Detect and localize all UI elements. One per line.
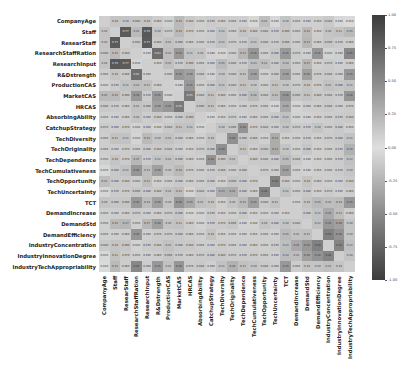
heatmap-cell: 0.080 <box>152 187 163 198</box>
heatmap-cell: 0.13 <box>131 80 142 91</box>
heatmap-cell: 0.060 <box>184 133 195 144</box>
heatmap-cell: 0.080 <box>195 91 206 102</box>
heatmap-cell: 0.060 <box>302 101 313 112</box>
heatmap-cell: 0.070 <box>184 165 195 176</box>
heatmap-cell: 0.14 <box>334 197 345 208</box>
heatmap-cell: 0.080 <box>174 229 185 240</box>
heatmap-cell <box>312 229 323 240</box>
heatmap-cell: 0.080 <box>227 59 238 70</box>
heatmap-cell: 0.11 <box>110 251 121 262</box>
heatmap-cell: 0.050 <box>312 133 323 144</box>
heatmap-cell: 0.080 <box>238 165 249 176</box>
heatmap-cell: 0.35 <box>323 219 334 230</box>
heatmap-cell: 0.060 <box>248 112 259 123</box>
heatmap-cell: 0.49 <box>270 176 281 187</box>
heatmap-cell: 0.090 <box>323 37 334 48</box>
heatmap-cell: 0.030 <box>131 59 142 70</box>
heatmap-cell: 0.080 <box>110 165 121 176</box>
heatmap-cell: 0.12 <box>238 261 249 272</box>
heatmap-cell: 0.070 <box>291 48 302 59</box>
heatmap-cell: 0.050 <box>291 16 302 27</box>
heatmap-cell <box>142 59 153 70</box>
heatmap-cell: 0.050 <box>259 208 270 219</box>
heatmap-cell: 0.080 <box>227 69 238 80</box>
column-label: DemandStd <box>302 276 312 376</box>
heatmap-cell: 0.060 <box>259 251 270 262</box>
heatmap-cell: 0.060 <box>291 37 302 48</box>
heatmap-cell: 0.35 <box>302 240 313 251</box>
column-label: MarketCAS <box>174 276 184 376</box>
heatmap-cell: 0.030 <box>142 48 153 59</box>
heatmap-cell: 0.080 <box>270 112 281 123</box>
heatmap-cell: 0.060 <box>259 229 270 240</box>
heatmap-cell: 0.070 <box>238 37 249 48</box>
heatmap-cell: 0.070 <box>195 251 206 262</box>
heatmap-cell: 0.070 <box>334 37 345 48</box>
heatmap-cell: 0.090 <box>302 144 313 155</box>
heatmap-cell: 0.38 <box>334 229 345 240</box>
heatmap-cell: 0.080 <box>238 176 249 187</box>
heatmap-cell: 0.060 <box>152 80 163 91</box>
heatmap-cell: 0.060 <box>195 165 206 176</box>
heatmap-cell <box>334 251 345 262</box>
heatmap-cell: 0.13 <box>291 251 302 262</box>
heatmap-cell: 0.070 <box>302 133 313 144</box>
heatmap-cell: 0.040 <box>302 165 313 176</box>
heatmap-cell: 0.070 <box>270 240 281 251</box>
row-label: DemandIncrease <box>46 208 96 218</box>
heatmap-cell: 0.090 <box>131 187 142 198</box>
heatmap-cell: 0.070 <box>323 59 334 70</box>
heatmap-cell: 0.080 <box>270 69 281 80</box>
heatmap-cell: 0.10 <box>110 69 121 80</box>
heatmap-cell: 0.040 <box>302 112 313 123</box>
heatmap-cell: 0.060 <box>259 112 270 123</box>
heatmap-cell <box>323 240 334 251</box>
heatmap-cell: 0.060 <box>120 208 131 219</box>
heatmap-cell: 0.080 <box>238 187 249 198</box>
heatmap-cell: 0.090 <box>131 16 142 27</box>
heatmap-cell: 0.36 <box>248 48 259 59</box>
heatmap-cell: 0.050 <box>238 112 249 123</box>
heatmap-cell: 0.48 <box>334 240 345 251</box>
heatmap-cell: 0.10 <box>99 37 110 48</box>
heatmap-cell: 0.070 <box>163 27 174 38</box>
colorbar-tick-label: -0.25 <box>388 179 397 183</box>
heatmap-cell: 0.10 <box>312 123 323 134</box>
heatmap-cell: 0.070 <box>142 155 153 166</box>
heatmap-cell: 0.15 <box>302 27 313 38</box>
column-label: DemandEfficiency <box>313 276 323 376</box>
heatmap-cell: 0.11 <box>110 133 121 144</box>
heatmap-cell: 0.12 <box>323 261 334 272</box>
heatmap-cell: 0.030 <box>270 101 281 112</box>
heatmap-cell: 0.060 <box>120 229 131 240</box>
heatmap-cell: 0.090 <box>195 101 206 112</box>
heatmap-cell: 0.35 <box>131 91 142 102</box>
heatmap-cell: 0.080 <box>302 208 313 219</box>
heatmap-cell: 0.020 <box>248 16 259 27</box>
heatmap-cell: 0.090 <box>99 48 110 59</box>
heatmap-cell: 0.36 <box>312 48 323 59</box>
heatmap-cell: 0.13 <box>142 176 153 187</box>
heatmap-cell: 0.060 <box>184 229 195 240</box>
row-label: MarketCAS <box>63 91 96 101</box>
column-label: TechDiversity <box>217 276 227 376</box>
heatmap-cell: 0.10 <box>216 69 227 80</box>
heatmap-cell: 0.080 <box>323 69 334 80</box>
heatmap-cell <box>99 16 110 27</box>
heatmap-cell: 0.050 <box>248 208 259 219</box>
heatmap-cell: 0.030 <box>216 48 227 59</box>
heatmap-cell: 0.050 <box>291 133 302 144</box>
heatmap-cell: 0.090 <box>227 123 238 134</box>
heatmap-cell: 0.050 <box>99 208 110 219</box>
heatmap-cell: 0.090 <box>334 80 345 91</box>
heatmap-cell: 0.38 <box>206 155 217 166</box>
heatmap-cell: 0.090 <box>120 91 131 102</box>
colorbar-tick-label: 0.50 <box>388 79 396 83</box>
heatmap-cell: 0.090 <box>259 144 270 155</box>
heatmap-cell: 0.10 <box>206 229 217 240</box>
column-label: ResearchInput <box>142 276 152 376</box>
heatmap-cell: 0.070 <box>184 261 195 272</box>
column-label: TCT <box>281 276 291 376</box>
colorbar-tick-label: -1.00 <box>388 278 397 282</box>
row-label: CatchupStrategy <box>46 123 96 133</box>
